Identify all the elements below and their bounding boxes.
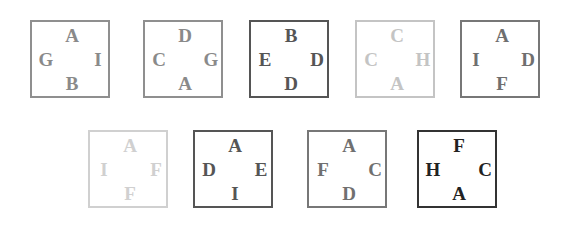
letter-left: I [94, 160, 114, 179]
letter-bottom: B [62, 74, 82, 93]
letter-top: C [387, 26, 407, 45]
letter-panel-3: B E D D [249, 20, 329, 98]
letter-right: C [475, 160, 495, 179]
letter-bottom: D [281, 74, 301, 93]
letter-bottom: A [449, 184, 469, 203]
letter-left: F [313, 160, 333, 179]
letter-left: G [36, 50, 56, 69]
letter-top: F [449, 136, 469, 155]
letter-left: E [255, 50, 275, 69]
letter-bottom: D [339, 184, 359, 203]
letter-right: H [413, 50, 433, 69]
letter-bottom: F [120, 184, 140, 203]
letter-left: D [199, 160, 219, 179]
letter-right: G [201, 50, 221, 69]
letter-panel-9: F H C A [417, 130, 497, 208]
letter-top: A [339, 136, 359, 155]
letter-panel-1: A G I B [30, 20, 110, 98]
letter-top: A [492, 26, 512, 45]
letter-right: E [251, 160, 271, 179]
letter-top: A [62, 26, 82, 45]
letter-panel-8: A F C D [307, 130, 387, 208]
letter-right: I [88, 50, 108, 69]
letter-left: C [361, 50, 381, 69]
letter-bottom: I [225, 184, 245, 203]
letter-right: F [146, 160, 166, 179]
letter-right: D [518, 50, 538, 69]
letter-panel-2: D C G A [143, 20, 223, 98]
letter-bottom: A [387, 74, 407, 93]
letter-right: D [307, 50, 327, 69]
letter-right: C [365, 160, 385, 179]
letter-top: B [281, 26, 301, 45]
letter-left: H [423, 160, 443, 179]
letter-panel-5: A I D F [460, 20, 540, 98]
letter-panel-6: A I F F [88, 130, 168, 208]
letter-top: A [120, 136, 140, 155]
letter-bottom: A [175, 74, 195, 93]
letter-top: D [175, 26, 195, 45]
letter-left: I [466, 50, 486, 69]
letter-panel-7: A D E I [193, 130, 273, 208]
letter-left: C [149, 50, 169, 69]
letter-panel-4: C C H A [355, 20, 435, 98]
letter-top: A [225, 136, 245, 155]
letter-bottom: F [492, 74, 512, 93]
